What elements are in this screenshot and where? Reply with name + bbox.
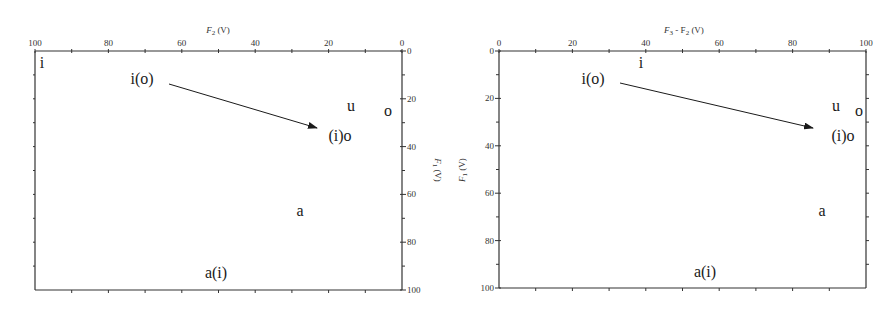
left-y-ticks bbox=[400, 51, 406, 290]
y-tick-label: 80 bbox=[407, 237, 417, 247]
x-tick-label: 100 bbox=[28, 38, 42, 48]
right-y-tick-labels: 0 20 40 60 80 100 bbox=[481, 46, 495, 293]
x-tick-label: 60 bbox=[177, 38, 187, 48]
x-tick-label: 40 bbox=[251, 38, 261, 48]
point-label-i-o: i(o) bbox=[581, 70, 604, 88]
y-tick-label: 100 bbox=[407, 285, 421, 295]
right-x-axis-title: F3 - F2 (V) bbox=[663, 25, 704, 37]
point-label-o: o bbox=[855, 102, 863, 119]
point-label-a: a bbox=[818, 202, 825, 219]
right-arrow bbox=[620, 83, 813, 128]
x-tick-label: 40 bbox=[641, 38, 651, 48]
y-tick-label: 0 bbox=[490, 46, 495, 56]
right-chart: 0 20 40 60 80 100 0 20 40 60 80 100 F3 -… bbox=[457, 25, 873, 293]
point-label-u: u bbox=[347, 97, 355, 114]
right-x-tick-labels: 0 20 40 60 80 100 bbox=[497, 38, 874, 48]
point-label-io: (i)o bbox=[831, 127, 854, 145]
x-tick-label: 0 bbox=[400, 38, 405, 48]
y-tick-label: 0 bbox=[407, 46, 412, 56]
x-tick-label: 80 bbox=[104, 38, 114, 48]
x-tick-label: 60 bbox=[715, 38, 725, 48]
y-tick-label: 40 bbox=[485, 141, 495, 151]
point-label-u: u bbox=[832, 97, 840, 114]
x-tick-label: 100 bbox=[859, 38, 873, 48]
figure: 100 80 60 40 20 0 0 20 40 60 80 100 F2 (… bbox=[0, 0, 888, 309]
point-label-a: a bbox=[296, 202, 303, 219]
left-x-tick-labels: 100 80 60 40 20 0 bbox=[28, 38, 405, 48]
y-tick-label: 80 bbox=[485, 236, 495, 246]
right-y-axis-title: F1 (V) bbox=[457, 158, 469, 183]
left-chart: 100 80 60 40 20 0 0 20 40 60 80 100 F2 (… bbox=[28, 25, 443, 295]
left-y-axis-title: F1 (V) bbox=[431, 157, 443, 182]
right-y-ticks bbox=[495, 51, 501, 288]
point-label-a-i: a(i) bbox=[205, 264, 227, 282]
point-label-io: (i)o bbox=[328, 127, 351, 145]
x-tick-label: 0 bbox=[497, 38, 502, 48]
point-label-a-i: a(i) bbox=[694, 263, 716, 281]
right-plot-frame bbox=[499, 51, 866, 288]
right-data-labels: i i(o) u o (i)o a a(i) bbox=[581, 54, 863, 281]
point-label-o: o bbox=[384, 102, 392, 119]
left-y-tick-labels: 0 20 40 60 80 100 bbox=[407, 46, 421, 295]
y-tick-label: 40 bbox=[407, 142, 417, 152]
point-label-i-o: i(o) bbox=[130, 70, 153, 88]
left-x-axis-title: F2 (V) bbox=[205, 25, 230, 37]
y-tick-label: 20 bbox=[407, 94, 417, 104]
left-data-labels: i i(o) u o (i)o a a(i) bbox=[40, 54, 392, 282]
y-tick-label: 60 bbox=[407, 189, 417, 199]
left-plot-frame bbox=[35, 51, 402, 290]
y-tick-label: 60 bbox=[485, 188, 495, 198]
x-tick-label: 80 bbox=[788, 38, 798, 48]
point-label-i: i bbox=[40, 54, 45, 71]
left-arrow bbox=[169, 84, 317, 128]
point-label-i: i bbox=[639, 54, 644, 71]
x-tick-label: 20 bbox=[568, 38, 578, 48]
y-tick-label: 20 bbox=[485, 93, 495, 103]
x-tick-label: 20 bbox=[324, 38, 334, 48]
y-tick-label: 100 bbox=[481, 283, 495, 293]
